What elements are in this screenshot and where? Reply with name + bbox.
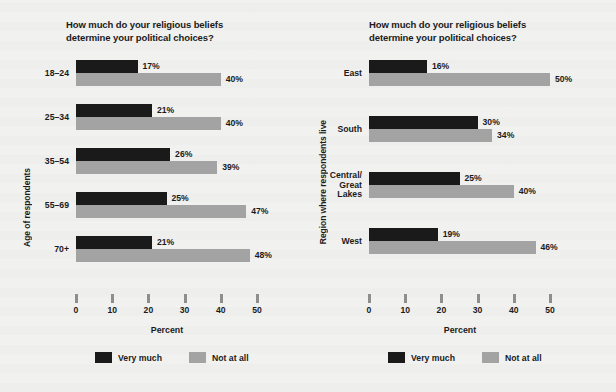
x-axis-tick [477,294,480,303]
bar-value-not-at-all: 40% [519,186,536,196]
bar-value-not-at-all: 50% [555,74,572,84]
bar-value-very-much: 16% [432,61,449,71]
legend-item: Not at all [482,352,542,363]
bar-value-very-much: 19% [443,229,460,239]
x-axis-tick [549,294,552,303]
legend-label: Very much [411,353,455,363]
chart-title-age: How much do your religious beliefs deter… [66,19,223,44]
bar-not-at-all [369,129,492,142]
legend-swatch-icon [482,352,499,363]
bar-very-much [76,104,152,117]
bar-value-very-much: 21% [157,105,174,115]
bar-value-very-much: 25% [465,173,482,183]
legend-age: Very muchNot at all [95,352,249,363]
x-axis-tick-label: 0 [357,305,381,315]
legend-item: Not at all [189,352,249,363]
legend-region: Very muchNot at all [388,352,542,363]
legend-swatch-icon [189,352,206,363]
bar-value-very-much: 30% [483,117,500,127]
x-axis-title-region: Percent [369,325,551,335]
x-axis-tick-label: 50 [245,305,269,315]
bar-value-very-much: 17% [143,61,160,71]
bar-not-at-all [369,185,514,198]
legend-label: Not at all [505,353,542,363]
category-label: East [318,69,362,79]
category-label: 35–54 [29,157,69,167]
bar-very-much [76,60,138,73]
bar-value-not-at-all: 46% [541,242,558,252]
bar-very-much [369,228,438,241]
bar-very-much [369,60,427,73]
x-axis-tick-label: 10 [393,305,417,315]
chart-panel-age: How much do your religious beliefs deter… [0,0,308,392]
x-axis-tick-label: 40 [209,305,233,315]
bar-value-not-at-all: 34% [497,130,514,140]
category-label: 18–24 [29,69,69,79]
chart-title-region: How much do your religious beliefs deter… [369,19,526,44]
category-label: South [318,125,362,135]
x-axis-tick [220,294,223,303]
bar-group: West19%46% [308,228,616,256]
x-axis-tick [147,294,150,303]
x-axis-title-age: Percent [76,325,258,335]
bar-not-at-all [369,73,550,86]
bar-not-at-all [76,117,221,130]
x-axis-tick [404,294,407,303]
legend-swatch-icon [95,352,112,363]
bar-very-much [76,236,152,249]
bar-value-not-at-all: 40% [226,118,243,128]
charts-container: How much do your religious beliefs deter… [0,0,616,392]
bar-very-much [76,148,170,161]
x-axis-tick-label: 20 [136,305,160,315]
x-axis-tick-label: 40 [502,305,526,315]
x-axis-tick [513,294,516,303]
x-axis-tick [368,294,371,303]
legend-swatch-icon [388,352,405,363]
bar-group: South30%34% [308,116,616,144]
x-axis-tick-label: 20 [429,305,453,315]
bar-not-at-all [76,161,217,174]
bar-group: 35–5426%39% [0,148,308,176]
bar-value-not-at-all: 39% [222,162,239,172]
category-label: 70+ [29,245,69,255]
bar-group: 18–2417%40% [0,60,308,88]
x-axis-tick [75,294,78,303]
category-label: 55–69 [29,201,69,211]
bar-very-much [369,172,460,185]
legend-label: Not at all [212,353,249,363]
x-axis-tick-label: 10 [100,305,124,315]
x-axis-tick [440,294,443,303]
legend-item: Very much [95,352,162,363]
category-label: 25–34 [29,113,69,123]
bar-not-at-all [76,249,250,262]
bar-group: 25–3421%40% [0,104,308,132]
bar-not-at-all [369,241,536,254]
bar-group: 70+21%48% [0,236,308,264]
bar-value-not-at-all: 48% [255,250,272,260]
bar-very-much [369,116,478,129]
x-axis-tick [184,294,187,303]
bar-very-much [76,192,167,205]
bar-value-not-at-all: 47% [251,206,268,216]
legend-label: Very much [118,353,162,363]
x-axis-tick-label: 50 [538,305,562,315]
bar-group: 55–6925%47% [0,192,308,220]
legend-item: Very much [388,352,455,363]
bar-value-very-much: 25% [172,193,189,203]
bar-not-at-all [76,73,221,86]
chart-panel-region: How much do your religious beliefs deter… [308,0,616,392]
x-axis-tick [256,294,259,303]
bar-value-not-at-all: 40% [226,74,243,84]
category-label: West [318,237,362,247]
bar-value-very-much: 26% [175,149,192,159]
bar-group: Central/ Great Lakes25%40% [308,172,616,200]
x-axis-tick-label: 30 [173,305,197,315]
category-label: Central/ Great Lakes [318,171,362,200]
x-axis-tick-label: 0 [64,305,88,315]
bar-group: East16%50% [308,60,616,88]
bar-value-very-much: 21% [157,237,174,247]
x-axis-tick-label: 30 [466,305,490,315]
x-axis-tick [111,294,114,303]
bar-not-at-all [76,205,246,218]
